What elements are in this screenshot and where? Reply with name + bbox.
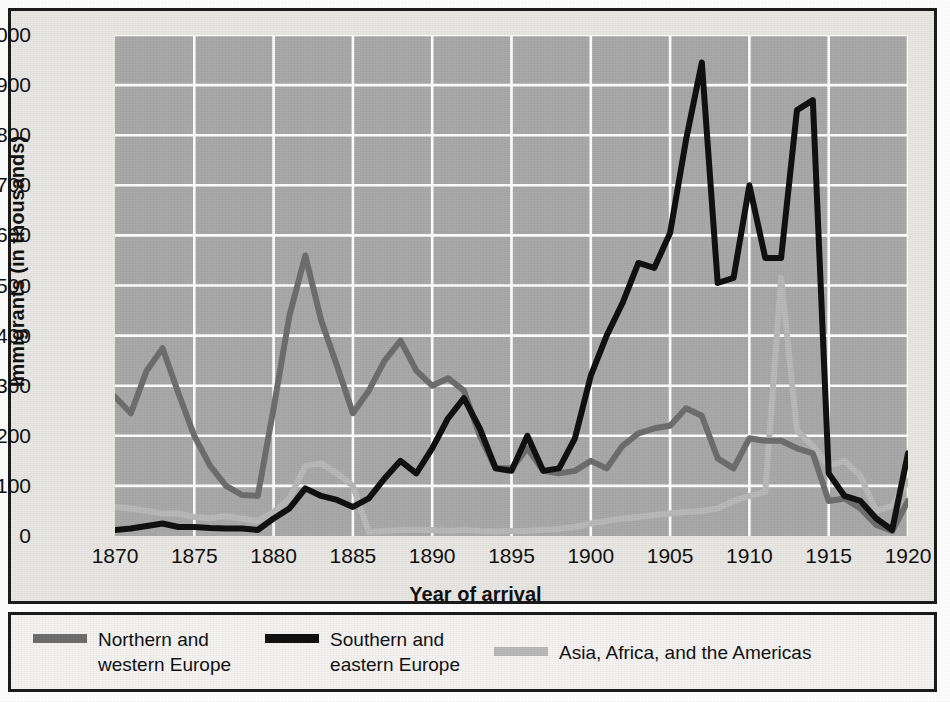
y-tick-label: 900: [0, 73, 31, 97]
legend-item-northern-western-europe[interactable]: Northern and western Europe: [33, 627, 231, 677]
x-tick-label: 1905: [630, 544, 710, 568]
x-tick-label: 1880: [234, 544, 314, 568]
y-tick-label: 300: [0, 374, 31, 398]
x-tick-label: 1915: [789, 544, 869, 568]
legend-item-southern-eastern-europe[interactable]: Southern and eastern Europe: [265, 627, 460, 677]
legend: Northern and western EuropeSouthern and …: [8, 612, 937, 692]
x-tick-label: 1920: [868, 544, 948, 568]
legend-label-asia-africa-americas: Asia, Africa, and the Americas: [559, 640, 811, 665]
x-tick-label: 1910: [709, 544, 789, 568]
x-tick-label: 1900: [551, 544, 631, 568]
y-tick-label: 700: [0, 173, 31, 197]
y-tick-label: 200: [0, 424, 31, 448]
x-tick-label: 1870: [75, 544, 155, 568]
x-tick-label: 1895: [472, 544, 552, 568]
plot-area: [115, 35, 908, 536]
x-tick-label: 1890: [392, 544, 472, 568]
y-tick-label: 500: [0, 274, 31, 298]
legend-item-asia-africa-americas[interactable]: Asia, Africa, and the Americas: [494, 640, 811, 665]
figure-page: Immigrants (in thousands) Year of arriva…: [0, 0, 950, 702]
legend-swatch-asia-africa-americas: [494, 647, 548, 656]
legend-swatch-southern-eastern-europe: [265, 634, 319, 643]
x-axis-title: Year of arrival: [11, 583, 940, 606]
chart-figure: Immigrants (in thousands) Year of arriva…: [8, 8, 937, 604]
chart-svg: [115, 35, 908, 536]
legend-label-southern-eastern-europe: Southern and eastern Europe: [330, 627, 460, 677]
y-tick-label: 800: [0, 123, 31, 147]
legend-label-northern-western-europe: Northern and western Europe: [98, 627, 231, 677]
y-tick-label: 0: [0, 524, 31, 548]
x-tick-label: 1885: [313, 544, 393, 568]
y-tick-label: 100: [0, 474, 31, 498]
x-tick-label: 1875: [154, 544, 234, 568]
y-tick-label: 600: [0, 223, 31, 247]
legend-swatch-northern-western-europe: [33, 634, 87, 643]
y-tick-label: 400: [0, 324, 31, 348]
y-tick-label: 1000: [0, 23, 31, 47]
